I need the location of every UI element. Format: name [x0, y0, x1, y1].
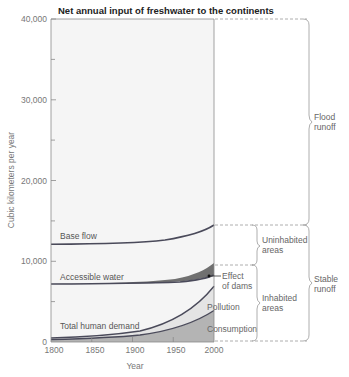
stable-runoff-label-1: Stable [314, 274, 338, 284]
inhabited-areas-label-1: Inhabited [262, 293, 297, 303]
dams-pointer-dot [208, 275, 211, 278]
y-tick-20000: 20,000 [21, 176, 47, 186]
flood-runoff-label-2: runoff [314, 122, 336, 132]
y-tick-40000: 40,000 [21, 14, 47, 24]
x-tick-1800: 1800 [45, 345, 64, 355]
plot-area [51, 19, 214, 342]
uninhabited-areas-label-2: areas [262, 245, 283, 255]
x-tick-1850: 1850 [86, 345, 105, 355]
flood-runoff-brace [303, 19, 312, 225]
base-flow-label: Base flow [60, 231, 98, 241]
chart-title: Net annual input of freshwater to the co… [58, 5, 274, 16]
pollution-label: Pollution [207, 302, 240, 312]
x-tick-1950: 1950 [167, 345, 186, 355]
x-axis-label: Year [126, 361, 143, 371]
effect-of-dams-label-1: Effect [222, 271, 244, 281]
total-human-demand-label: Total human demand [60, 321, 140, 331]
y-axis-label: Cubic kilometers per year [6, 132, 16, 229]
uninhabited-areas-label-1: Uninhabited [262, 235, 308, 245]
y-tick-30000: 30,000 [21, 95, 47, 105]
x-tick-2000: 2000 [205, 345, 224, 355]
effect-of-dams-label-2: of dams [222, 281, 252, 291]
x-tick-1900: 1900 [126, 345, 145, 355]
chart-svg: Net annual input of freshwater to the co… [0, 0, 349, 377]
stable-runoff-label-2: runoff [314, 284, 336, 294]
uninhabited-brace [252, 225, 260, 265]
accessible-water-label: Accessible water [60, 272, 124, 282]
consumption-label: Consumption [207, 324, 257, 334]
inhabited-areas-label-2: areas [262, 303, 283, 313]
y-tick-10000: 10,000 [21, 256, 47, 266]
flood-runoff-label-1: Flood [314, 112, 336, 122]
